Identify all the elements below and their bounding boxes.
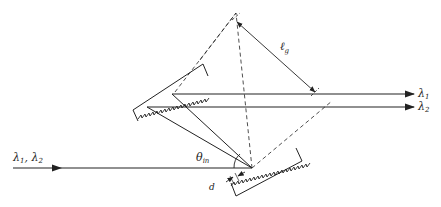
input-beams-label: λ1, λ2 [12, 151, 43, 165]
output-1-label: λ1 [417, 87, 429, 101]
output-beams [147, 91, 415, 111]
groove-spacing-marker [226, 172, 245, 184]
upper-grating [133, 64, 209, 121]
incident-arrow-icon [52, 165, 62, 172]
lower-grating [231, 148, 310, 196]
output-arrow-2-icon [405, 104, 415, 111]
grating-separation-label: ℓg [280, 40, 290, 55]
output-2-label: λ2 [417, 100, 430, 114]
separation-dimension [232, 13, 319, 96]
output-arrow-1-icon [405, 91, 415, 98]
incident-beam [13, 165, 252, 172]
groove-spacing-label: d [209, 182, 215, 192]
incidence-angle-label: θin [196, 151, 210, 165]
grating-pair-diagram: λ1, λ2 λ1 λ2 ℓg θin d [0, 0, 441, 207]
